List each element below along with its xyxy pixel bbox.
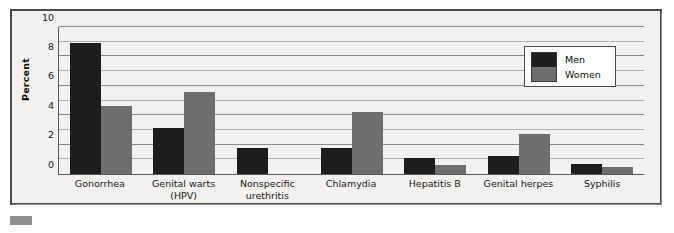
y-axis-tick-label: 4 (48, 101, 54, 111)
y-axis-title: Percent (20, 58, 31, 101)
decorative-marker (10, 216, 32, 225)
legend-label-men: Men (565, 52, 601, 67)
y-axis-tick-label: 10 (42, 13, 54, 23)
bar-group (226, 27, 310, 174)
chart-legend: Men Women (524, 46, 616, 87)
bar-group (59, 27, 143, 174)
x-axis-label: Chlamydia (309, 178, 393, 201)
bar-men (571, 164, 602, 174)
legend-swatch-men (532, 53, 556, 67)
bar-women (101, 106, 132, 174)
y-axis-tick-label: 8 (48, 42, 54, 52)
x-axis-label: Nonspecificurethritis (225, 178, 309, 201)
x-axis-labels: GonorrheaGenital warts (HPV)Nonspecificu… (58, 178, 644, 201)
bar-women (602, 167, 633, 174)
bar-men (404, 158, 435, 174)
legend-swatch-women (532, 67, 556, 81)
x-axis-label: Gonorrhea (58, 178, 142, 201)
y-axis-tick-label: 6 (48, 72, 54, 82)
bar-men (153, 128, 184, 174)
bar-women (184, 92, 215, 174)
bar-women (519, 134, 550, 174)
x-axis-label: Genital herpes (477, 178, 561, 201)
bar-women (352, 112, 383, 174)
chart-figure-frame: Percent 0246810 GonorrheaGenital warts (… (10, 9, 662, 205)
bar-men (70, 43, 101, 174)
y-axis-tick-label: 0 (48, 160, 54, 170)
x-axis-label: Genital warts (HPV) (142, 178, 226, 201)
bar-men (488, 156, 519, 174)
legend-swatch-block (531, 52, 557, 82)
y-axis-tick-label: 2 (48, 130, 54, 140)
legend-label-women: Women (565, 67, 601, 82)
bar-men (321, 148, 352, 174)
legend-labels: Men Women (565, 52, 601, 82)
bar-group (310, 27, 394, 174)
bar-group (143, 27, 227, 174)
x-axis-label: Hepatitis B (393, 178, 477, 201)
bar-women (435, 165, 466, 174)
bar-men (237, 148, 268, 174)
x-axis-label: Syphilis (560, 178, 644, 201)
bar-group (393, 27, 477, 174)
